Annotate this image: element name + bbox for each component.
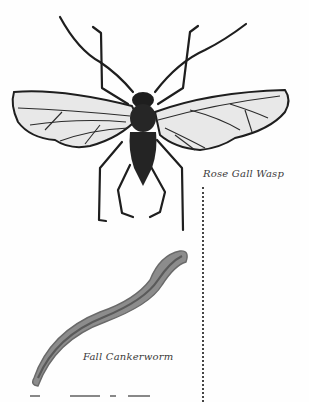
rose-gall-wasp-caption: Rose Gall Wasp (203, 168, 284, 179)
fall-cankerworm-caption: Fall Cankerworm (83, 351, 173, 362)
book-page: Rose Gall Wasp Fall Cankerworm (0, 0, 309, 402)
cropped-text-fragment (30, 395, 170, 402)
dotted-leader-line (202, 187, 204, 402)
rose-gall-wasp-illustration (0, 0, 309, 402)
